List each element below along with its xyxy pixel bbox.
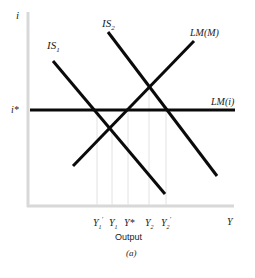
panel-label: (a)	[126, 248, 137, 258]
lm-m-curve	[73, 41, 194, 166]
x-tick-y1-prime: Y1′	[93, 215, 104, 230]
is1-curve	[53, 61, 165, 194]
is2-label: IS2	[101, 17, 115, 32]
y-axis-label: i	[16, 9, 19, 21]
x-tick-y2-prime: Y2′	[161, 215, 172, 230]
x-tick-y1: Y1	[109, 217, 118, 230]
x-tick-y2: Y2	[145, 217, 154, 230]
istar-label: i*	[11, 104, 19, 115]
is2-curve	[108, 32, 217, 176]
lm-i-label: LM(i)	[210, 96, 235, 108]
islm-diagram: i i* IS1 IS2 LM(M) LM(i) Y1′ Y1 Y* Y2 Y2…	[0, 0, 255, 278]
x-axis-symbol: Y	[227, 216, 234, 227]
x-axis-title: Output	[115, 232, 143, 242]
lm-m-label: LM(M)	[189, 27, 220, 39]
is1-label: IS1	[46, 39, 60, 54]
x-tick-ystar: Y*	[124, 217, 135, 228]
